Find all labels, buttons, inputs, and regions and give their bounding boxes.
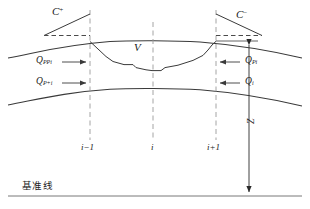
label-c-minus-sup: −	[243, 9, 247, 17]
label-datum-line: 基准线	[22, 181, 53, 191]
station-label-prev: i−1	[81, 143, 94, 152]
label-q-i-base: Q	[245, 76, 252, 86]
label-q-ppi-sub: PPi	[43, 59, 52, 65]
ground-surface-curve	[8, 41, 302, 58]
station-label-current-base: i	[151, 142, 154, 152]
label-q-pi: QPi	[245, 56, 257, 66]
label-c-plus-sup: +	[59, 6, 63, 14]
label-q-pi-sub: Pi	[252, 59, 257, 65]
station-label-current: i	[151, 143, 154, 152]
label-c-minus: C−	[236, 9, 247, 20]
label-q-pxi-base: Q	[36, 76, 43, 86]
diagram-root: C+ C− QPPi QP+i QPi Qi V Z i−1 i i+1 基准线	[0, 0, 310, 209]
label-q-pi-base: Q	[245, 55, 252, 65]
label-z: Z	[246, 118, 256, 124]
label-q-ppi-base: Q	[36, 55, 43, 65]
station-label-next: i+1	[207, 143, 220, 152]
label-q-i-sub: i	[252, 80, 254, 86]
label-q-ppi: QPPi	[36, 56, 52, 66]
station-label-next-suffix: +1	[210, 142, 221, 152]
label-q-pxi-sub: P+i	[43, 80, 53, 86]
triangle-c-plus-hypotenuse	[44, 14, 90, 36]
label-q-i: Qi	[245, 77, 254, 87]
station-label-prev-suffix: −1	[84, 142, 95, 152]
diagram-canvas	[0, 0, 310, 209]
label-c-plus: C+	[52, 6, 63, 17]
label-v: V	[134, 42, 141, 53]
lower-stratum-curve	[8, 88, 302, 106]
label-q-pxi: QP+i	[36, 77, 52, 87]
